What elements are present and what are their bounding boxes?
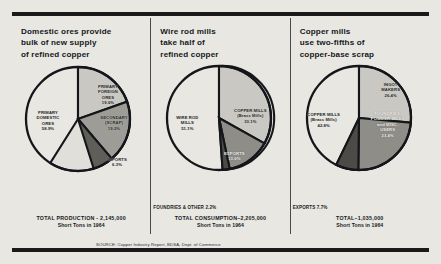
label-primary-domestic-ores: PRIMARY DOMESTIC ORES 58.9%: [24, 110, 72, 132]
label-ingot-makers: INGOT MAKERS 26.4%: [369, 82, 413, 98]
pie-chart-consumption: COPPER MILLS (Brass Mills) 33.1% WIRE RO…: [151, 62, 289, 180]
pie-chart-scrap: INGOT MAKERS 26.4% COPPER MILLS (Brass M…: [291, 62, 429, 180]
panel-2-headline: Wire rod mills take half of refined copp…: [160, 26, 284, 60]
panel-3-headline: Copper mills use two-fifths of copper-ba…: [300, 26, 424, 60]
pie-chart-production: PRIMARY FOREIGN ORES 19.6% PRIMARY DOMES…: [12, 62, 150, 180]
label-primary-foreign-ores: PRIMARY FOREIGN ORES 19.6%: [86, 84, 130, 106]
callout-foundries-other: FOUNDRIES & OTHER 2.2%: [153, 205, 216, 210]
top-divider-rule: [12, 12, 429, 16]
label-wire-rod-mills: WIRE ROD MILLS 51.1%: [164, 115, 210, 131]
label-secondary-scrap: SECONDARY (SCRAP) 19.2%: [90, 115, 138, 131]
panel-1-headline: Domestic ores provide bulk of new supply…: [21, 26, 145, 60]
label-exports: EXPORTS 13.6%: [213, 151, 255, 162]
panels-container: Domestic ores provide bulk of new supply…: [12, 18, 429, 234]
source-credit: SOURCE: Copper Industry Report, BDSA, De…: [96, 242, 221, 247]
infographic-figure: Domestic ores provide bulk of new supply…: [0, 0, 441, 264]
panel-3-totals: TOTAL–1,035,000 Short Tons in 1964: [291, 214, 429, 230]
panel-production: Domestic ores provide bulk of new supply…: [12, 18, 150, 234]
label-copper-mills-brass-3: COPPER MILLS (Brass Mills) 42.8%: [297, 112, 351, 128]
bottom-divider-rule: [12, 248, 429, 252]
label-copper-mills-brass: COPPER MILLS (Brass Mills) 33.1%: [223, 108, 277, 124]
panel-2-totals: TOTAL CONSUMPTION–2,205,000 Short Tons i…: [151, 214, 289, 230]
label-imports: IMPORTS 6.3%: [100, 157, 134, 168]
panel-scrap: Copper mills use two-fifths of copper-ba…: [290, 18, 429, 234]
callout-exports-3: EXPORTS 7.7%: [293, 205, 328, 210]
panel-1-totals: TOTAL PRODUCTION - 2,145,000 Short Tons …: [12, 214, 150, 230]
label-foundries-powder-misc: FOUNDRIES, POWDER MILLS and MISC. USERS …: [361, 111, 415, 138]
panel-consumption: Wire rod mills take half of refined copp…: [150, 18, 289, 234]
